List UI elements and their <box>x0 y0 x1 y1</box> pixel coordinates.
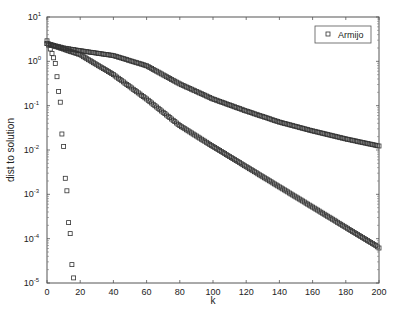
data-point-square-marker <box>58 100 62 104</box>
y-tick-label: 101 <box>28 11 42 22</box>
x-tick-label: 180 <box>338 287 353 297</box>
x-tick-label: 60 <box>142 287 152 297</box>
y-tick-label: 10-1 <box>24 100 40 111</box>
plot-svg: 020406080100120140160180200 10110010-110… <box>0 0 401 320</box>
data-point-square-marker <box>57 89 61 93</box>
data-point-square-marker <box>60 132 64 136</box>
y-tick-label: 100 <box>28 55 42 66</box>
data-point-square-marker <box>53 61 57 65</box>
x-tick-label: 120 <box>239 287 254 297</box>
x-axis-ticks: 020406080100120140160180200 <box>44 17 386 297</box>
data-point-square-marker <box>72 276 76 280</box>
axes-frame <box>47 17 379 283</box>
data-point-square-marker <box>63 176 67 180</box>
data-markers <box>45 39 381 280</box>
x-tick-label: 200 <box>371 287 386 297</box>
x-tick-label: 80 <box>175 287 185 297</box>
y-tick-label: 10-4 <box>24 233 40 244</box>
data-point-square-marker <box>67 221 71 225</box>
data-point-square-marker <box>68 232 72 236</box>
y-axis-label: dist to solution <box>5 118 16 182</box>
legend: Armijo <box>315 26 371 43</box>
x-tick-label: 40 <box>108 287 118 297</box>
data-point-square-marker <box>65 189 69 193</box>
y-tick-label: 10-2 <box>24 144 40 155</box>
data-point-square-marker <box>50 52 54 56</box>
y-tick-label: 10-3 <box>24 188 40 199</box>
legend-label: Armijo <box>338 30 364 40</box>
data-point-square-marker <box>52 56 56 60</box>
x-tick-label: 140 <box>272 287 287 297</box>
x-tick-label: 0 <box>44 287 49 297</box>
data-point-square-marker <box>70 263 74 267</box>
data-point-square-marker <box>62 145 66 149</box>
x-tick-label: 20 <box>75 287 85 297</box>
data-point-square-marker <box>55 75 59 79</box>
x-tick-label: 160 <box>305 287 320 297</box>
chart: 020406080100120140160180200 10110010-110… <box>0 0 401 320</box>
y-tick-label: 10-5 <box>24 277 40 288</box>
